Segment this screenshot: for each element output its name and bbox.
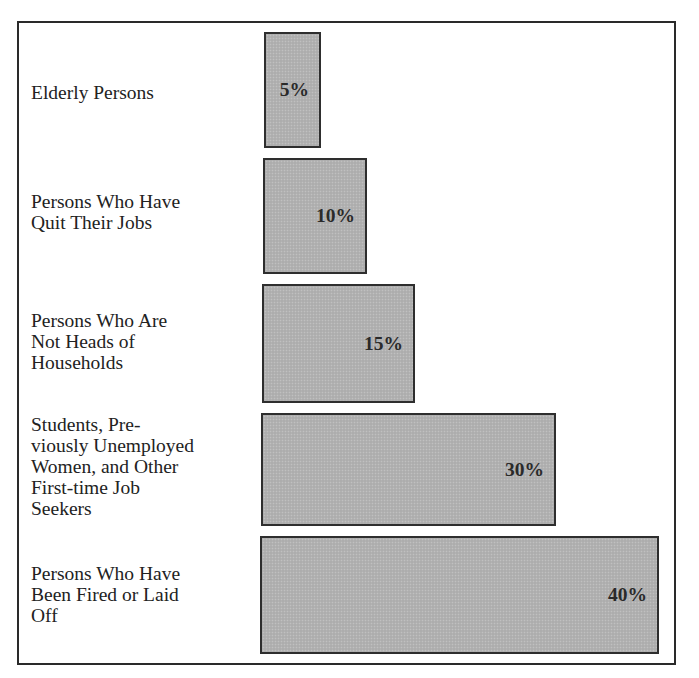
bar-quit-jobs: 10%: [263, 158, 367, 274]
bar-value-label: 5%: [280, 79, 309, 101]
bar-value-label: 15%: [364, 333, 403, 355]
bar-value-label: 30%: [505, 459, 544, 481]
bar-value-label: 40%: [608, 584, 647, 606]
bar-first-time-job-seekers: 30%: [261, 413, 556, 526]
category-label-first-time-job-seekers: Students, Pre- viously Unemployed Women,…: [31, 414, 261, 519]
category-label-not-heads-of-households: Persons Who Are Not Heads of Households: [31, 310, 261, 373]
category-label-elderly: Elderly Persons: [31, 82, 261, 103]
bar-value-label: 10%: [316, 205, 355, 227]
bar-elderly: 5%: [264, 32, 321, 148]
bar-not-heads-of-households: 15%: [262, 284, 415, 403]
category-label-fired-or-laid-off: Persons Who Have Been Fired or Laid Off: [31, 563, 261, 626]
category-label-quit-jobs: Persons Who Have Quit Their Jobs: [31, 191, 261, 233]
bar-fired-or-laid-off: 40%: [260, 536, 659, 654]
